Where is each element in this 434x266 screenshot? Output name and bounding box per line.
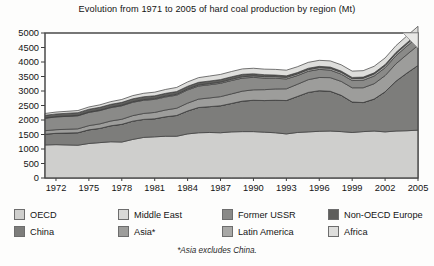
legend-swatch-africa [328,226,339,237]
chart-footnote: *Asia excludes China. [0,246,434,255]
y-tick-label: 2000 [18,115,39,125]
legend-item-africa[interactable]: Africa [328,226,424,237]
x-tick-label: 1987 [210,183,231,193]
x-tick-label: 1996 [309,183,330,193]
legend-label-middle-east: Middle East [134,210,182,220]
x-tick-label: 1975 [79,183,100,193]
legend-item-latin-america[interactable]: Latin America [222,226,328,237]
y-tick-label: 500 [23,159,39,169]
x-tick-label: 2005 [408,183,429,193]
plot-area: 0500100015002000250030003500400045005000… [18,26,428,193]
legend-swatch-latin-america [222,226,233,237]
legend-swatch-asia [118,226,129,237]
legend-swatch-non-oecd-europe [328,209,339,220]
x-tick-label: 1978 [111,183,132,193]
x-tick-label: 1981 [144,183,165,193]
legend-item-china[interactable]: China [14,226,118,237]
x-tick-label: 1993 [276,183,297,193]
y-tick-label: 5000 [18,28,39,38]
x-tick-label: 1984 [177,183,198,193]
y-tick-label: 4500 [18,43,39,53]
y-tick-label: 0 [34,173,39,183]
legend-label-latin-america: Latin America [238,227,294,237]
legend-swatch-oecd [14,209,25,220]
legend-label-china: China [30,227,54,237]
y-tick-label: 1500 [18,130,39,140]
y-tick-label: 4000 [18,57,39,67]
y-tick-label: 3000 [18,86,39,96]
x-tick-label: 1990 [243,183,264,193]
legend-row-2: China Asia* Latin America Africa [14,223,424,240]
legend-label-former-ussr: Former USSR [238,210,296,220]
legend-item-oecd[interactable]: OECD [14,209,118,220]
legend-row-1: OECD Middle East Former USSR Non-OECD Eu… [14,206,424,223]
legend-swatch-former-ussr [222,209,233,220]
legend-item-middle-east[interactable]: Middle East [118,209,222,220]
y-tick-label: 2500 [18,101,39,111]
y-tick-label: 1000 [18,144,39,154]
x-tick-label: 2002 [375,183,396,193]
x-axis-ticks: 1972197519781981198419871990199319961999… [46,178,429,193]
legend-swatch-middle-east [118,209,129,220]
y-tick-label: 3500 [18,72,39,82]
legend-label-africa: Africa [344,227,368,237]
stacked-area-plot: 0500100015002000250030003500400045005000… [0,0,434,200]
legend-swatch-china [14,226,25,237]
chart-figure: Evolution from 1971 to 2005 of hard coal… [0,0,434,266]
chart-legend: OECD Middle East Former USSR Non-OECD Eu… [14,206,424,240]
legend-item-former-ussr[interactable]: Former USSR [222,209,328,220]
x-tick-label: 1999 [342,183,363,193]
legend-label-asia: Asia* [134,227,155,237]
y-axis-ticks: 0500100015002000250030003500400045005000 [18,28,45,183]
legend-label-non-oecd-europe: Non-OECD Europe [344,210,423,220]
legend-label-oecd: OECD [30,210,57,220]
legend-item-non-oecd-europe[interactable]: Non-OECD Europe [328,209,424,220]
legend-item-asia[interactable]: Asia* [118,226,222,237]
x-tick-label: 1972 [46,183,67,193]
